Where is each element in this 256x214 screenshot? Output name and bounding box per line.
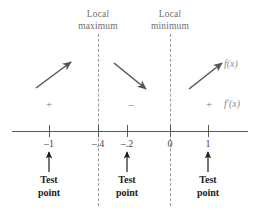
test-point-line2: point — [19, 187, 79, 200]
test-point-label-3: Test point — [178, 174, 238, 199]
axis-tick--1 — [49, 125, 50, 137]
sign-chart-figure: Local maximum Local minimum + – + — [0, 0, 256, 214]
critical-label-local-minimum: Local minimum — [130, 9, 210, 32]
axis-tick-label-0: 0 — [153, 138, 187, 149]
critical-label-line2: minimum — [130, 21, 210, 33]
axis-tick--0.4 — [98, 125, 99, 137]
test-point-line1: Test — [97, 174, 157, 187]
arrow-increasing-3 — [189, 63, 222, 89]
test-point-label-2: Test point — [97, 174, 157, 199]
dashed-line-local-minimum — [170, 34, 171, 206]
axis-tick-1 — [208, 125, 209, 137]
test-point-line1: Test — [178, 174, 238, 187]
axis-tick-label--1: –1 — [32, 138, 66, 149]
axis-tick--0.2 — [127, 125, 128, 137]
derivative-sign-1: + — [32, 98, 66, 110]
function-label-fx: f(x) — [224, 58, 238, 69]
critical-label-line1: Local — [58, 9, 138, 21]
test-point-line2: point — [97, 187, 157, 200]
derivative-sign-3: + — [192, 98, 226, 110]
axis-tick-0 — [170, 125, 171, 137]
number-line-axis — [12, 131, 248, 132]
arrow-increasing-1 — [36, 62, 71, 88]
arrow-decreasing-2 — [114, 63, 146, 89]
test-point-line2: point — [178, 187, 238, 200]
test-point-line1: Test — [19, 174, 79, 187]
critical-label-line1: Local — [130, 9, 210, 21]
axis-tick-label--0.2: –.2 — [110, 138, 144, 149]
test-point-label-1: Test point — [19, 174, 79, 199]
function-label-f-prime-x: f′(x) — [224, 98, 240, 109]
critical-label-line2: maximum — [58, 21, 138, 33]
critical-label-local-maximum: Local maximum — [58, 9, 138, 32]
axis-tick-label-1: 1 — [191, 138, 225, 149]
derivative-sign-2: – — [114, 98, 148, 110]
